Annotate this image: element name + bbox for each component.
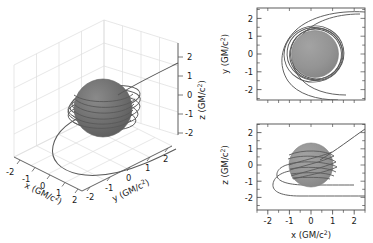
axis-z-label-3d: z (GM/c2) (196, 80, 207, 120)
axis-x-tick-label-xz: 0 (308, 216, 313, 226)
axis-y-tick-label: -2 (86, 192, 94, 202)
axis-y-tick-label-xy: 2 (248, 14, 253, 24)
axis-z-tick-label: 0 (187, 90, 192, 100)
axis-z-tick-label-xz: -2 (245, 193, 253, 203)
axis-z-tick-label-xz: 1 (248, 144, 253, 154)
axis-y-tick-label-xy: 1 (248, 31, 253, 41)
axis-x-tick-label-xz: 2 (352, 216, 357, 226)
axis-x-tick-label-xz: -1 (285, 216, 293, 226)
figure-canvas: 2 1 0 -1 -2 z (GM/c2) (0, 0, 373, 243)
axis-z-tick-label: -1 (185, 109, 193, 119)
axis-z-tick-label: 2 (187, 52, 192, 62)
axis-x-tick-label-xz: -2 (264, 216, 272, 226)
axis-z-ticks-3d (178, 57, 183, 133)
axis-z-label-xz: z (GM/c2) (219, 145, 230, 185)
axis-z-tick-label: -2 (185, 128, 193, 138)
axis-z-tick-label-xz: 2 (248, 128, 253, 138)
axis-x-tick-label-xz: 1 (330, 216, 335, 226)
axis-y-label-xy: y (GM/c2) (219, 34, 230, 74)
axis-z-tick-label: 1 (187, 71, 192, 81)
axis-y-tick-label: 0 (126, 173, 131, 183)
axis-x-tick-label: 2 (72, 195, 77, 205)
central-sphere-xy (292, 31, 339, 78)
central-sphere-xz (289, 143, 333, 187)
svg-xz: 2 1 0 -1 -2 z (GM/c2) (210, 118, 373, 243)
panel-projection-xy: 2 1 0 -1 -2 y (GM/c2) (210, 0, 373, 118)
panel-projection-xz: 2 1 0 -1 -2 z (GM/c2) (210, 118, 373, 243)
svg-3d: 2 1 0 -1 -2 z (GM/c2) (0, 0, 210, 243)
axis-x-ticks-xz (268, 210, 354, 215)
svg-xy: 2 1 0 -1 -2 y (GM/c2) (210, 0, 373, 118)
panel-3d-trajectory: 2 1 0 -1 -2 z (GM/c2) (0, 0, 210, 243)
axis-y-tick-label-xy: 0 (248, 49, 253, 59)
axis-z-tick-label-xz: -1 (245, 177, 253, 187)
axis-y-tick-label: -1 (105, 183, 113, 193)
axis-z-tick-label-xz: 0 (248, 160, 253, 170)
axis-y-tick-label: 1 (145, 163, 150, 173)
axis-x-tick-label: -2 (6, 167, 14, 177)
axis-y-tick-label: 2 (163, 154, 168, 164)
axis-x-label-xz: x (GM/c2) (291, 229, 331, 240)
axis-y-tick-label-xy: -1 (245, 67, 253, 77)
axis-y-tick-label-xy: -2 (245, 85, 253, 95)
